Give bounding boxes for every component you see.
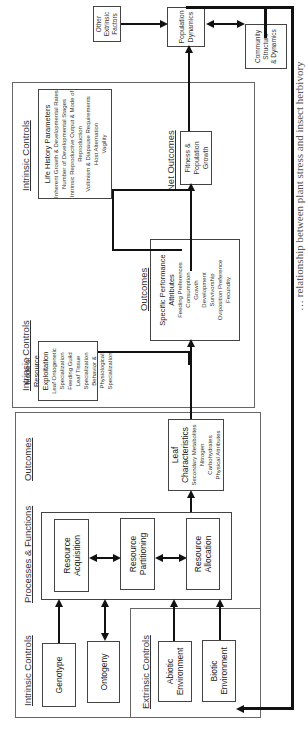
resource-allocation-box: Resource Allocation (186, 518, 220, 590)
arrowhead-icon (89, 554, 97, 562)
header-intrinsic-controls-3: Intrinsic Controls (20, 120, 31, 191)
perf-item: Development (200, 272, 208, 307)
genotype-label: Genotype (54, 657, 64, 694)
other-extrinsic-factors-box: Other Extrinsic Factors (93, 6, 121, 42)
arrow-other-popdyn (121, 23, 161, 25)
perf-item: Fecundity (224, 277, 232, 303)
leaf-item: Nitrogen (198, 444, 206, 467)
life-history-title: Life History Parameters (43, 105, 52, 183)
arrowhead-icon (101, 633, 109, 641)
arrow-ontogeny-processes (104, 607, 106, 633)
arrow-perf-mid (112, 189, 114, 251)
feedback-stub (264, 6, 267, 38)
arrow-abiotic-processes (173, 605, 175, 641)
arrow-mode-performance (98, 351, 190, 353)
arrowhead-icon (237, 20, 245, 28)
fitness-box: Fitness & Population Growth (180, 131, 212, 185)
arrowhead-icon (113, 554, 121, 562)
leaf-item: Physical Attributes (214, 430, 222, 479)
feedback-down (244, 707, 294, 710)
arrowhead-icon (206, 20, 214, 28)
frame-extrinsic-notch (130, 608, 261, 718)
leaf-title-2: Characteristics (180, 427, 190, 483)
ontogeny-box: Ontogeny (87, 641, 120, 703)
arrowhead-icon (170, 599, 178, 607)
biotic-label-2: Environment (219, 647, 229, 695)
arrowhead-icon (187, 339, 195, 347)
life-item: Host Alternation (92, 123, 100, 165)
fitness-label-1: Fitness & (183, 143, 192, 172)
abiotic-environment-box: Abiotic Environment (158, 641, 192, 702)
arrow-leaf-performance (190, 346, 192, 419)
life-item: Vagility (100, 135, 108, 154)
header-intrinsic-controls-1: Intrinsic Controls (22, 635, 33, 706)
arrowhead-icon (187, 183, 195, 191)
life-item: Inherent Growth & Developmental Rates (52, 90, 60, 198)
abiotic-label-2: Environment (175, 648, 185, 696)
arrowhead-icon (216, 599, 224, 607)
resource-allocation-label-1: Resource (193, 536, 203, 572)
arrow-popdyn-community (213, 23, 239, 25)
header-net-outcomes: Net Outcomes (165, 130, 176, 191)
resource-partitioning-label-2: Partitioning (138, 533, 148, 576)
resource-acquisition-label-2: Acquisition (72, 535, 82, 576)
leaf-item: Secondary Metabolites (190, 424, 198, 485)
biotic-environment-box: Biotic Environment (202, 640, 236, 702)
community-label-3: & Dynamics (270, 29, 278, 64)
perf-title-1: Specific Performance (158, 254, 167, 325)
arrow-genotype-processes (58, 605, 60, 643)
arrow-lifehistory-fitness (112, 189, 188, 191)
popdyn-label-2: Dynamics (186, 12, 195, 43)
diagram-stage: Intrinsic Controls Extrinsic Controls Pr… (0, 0, 308, 731)
arrowhead-icon (185, 45, 193, 53)
feedback-top (186, 6, 293, 9)
arrow-performance-fitness (190, 189, 192, 271)
mode-item: Leaf Ontogenetic Specialization (50, 342, 66, 400)
fitness-label-2: Population Growth (192, 132, 210, 184)
specific-performance-box: Specific Performance Attributes Feeding … (150, 239, 240, 341)
perf-item: Feeding Preferences (176, 262, 184, 318)
mode-of-resource-box: Mode of Resource Exploitation Leaf Ontog… (38, 341, 98, 401)
arrow-perf-mid-v (112, 249, 182, 251)
resource-allocation-label-2: Allocation (203, 536, 213, 573)
arrowhead-icon (187, 490, 195, 498)
perf-item: Oviposition Preference (216, 260, 224, 321)
arrow-fitness-popdyn (188, 51, 190, 131)
arrow-processes-leaf (190, 496, 192, 512)
life-history-box: Life History Parameters Inherent Growth … (38, 89, 112, 199)
perf-item: Survivorship (208, 274, 216, 307)
other-label-3: Factors (111, 13, 119, 35)
figure-caption: … relationship between plant stress and … (293, 61, 305, 311)
arrow-mode-performance-h (188, 351, 190, 365)
leaf-title-1: Leaf (170, 447, 180, 464)
mode-title-2: Exploitation (41, 352, 50, 391)
mode-item: Leaf Tissue Specialization (74, 342, 90, 400)
header-outcomes-2: Outcomes (138, 268, 149, 311)
arrowhead-icon (236, 705, 244, 713)
abiotic-label-1: Abiotic (165, 659, 175, 685)
resource-partitioning-box: Resource Partitioning (120, 518, 155, 590)
perf-item: Consumption (184, 272, 192, 307)
life-item: Intrinsic Reproductive Output & Mode of … (68, 90, 84, 198)
header-processes-functions: Processes & Functions (22, 506, 33, 603)
arrowhead-icon (55, 599, 63, 607)
resource-acquisition-label-1: Resource (62, 537, 72, 573)
perf-item: Growth (192, 280, 200, 299)
mode-title-1: Mode of Resource (23, 342, 41, 400)
population-dynamics-box: Population Dynamics (167, 7, 205, 47)
mode-item: Feeding Guild (66, 352, 74, 389)
other-label-1: Other (95, 16, 103, 32)
arrowhead-icon (155, 554, 163, 562)
other-label-2: Extrinsic (103, 12, 111, 37)
leaf-item: Carbohydrates (206, 435, 214, 474)
popdyn-label-1: Population (177, 10, 186, 43)
resource-partitioning-label-1: Resource (128, 536, 138, 572)
life-item: Number of Developmental Stages (60, 99, 68, 189)
leaf-characteristics-box: Leaf Characteristics Secondary Metabolit… (168, 419, 224, 491)
arrowhead-icon (179, 554, 187, 562)
life-item: Voltinism & Diapause Requirements (84, 96, 92, 192)
header-outcomes-1: Outcomes (22, 438, 33, 481)
community-label-1: Community (254, 30, 262, 63)
arrow-biotic-processes (219, 605, 221, 640)
arrowhead-icon (101, 599, 109, 607)
